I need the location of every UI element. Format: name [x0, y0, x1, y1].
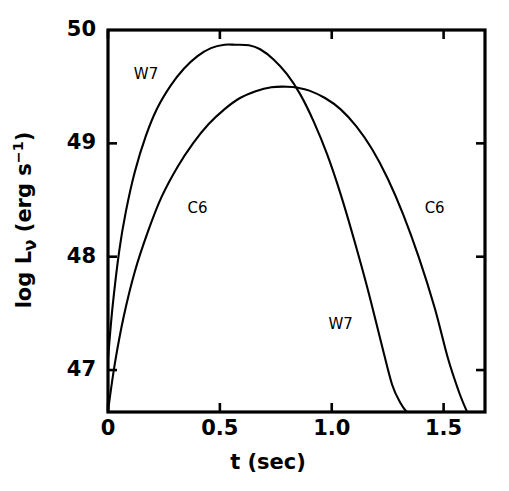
curve-annotation-c6-mid-right: C6: [425, 201, 445, 216]
x-tick-label-0: 0: [101, 418, 116, 439]
y-tick-label-48: 48: [62, 246, 96, 267]
y-axis-title: log Lν (erg s−1): [11, 132, 39, 309]
curve-annotation-w7-upper-left: W7: [134, 67, 158, 82]
y-axis-title-superscript: −1: [10, 141, 26, 163]
y-tick-label-49: 49: [62, 132, 96, 153]
x-tick-label-1-5: 1.5: [425, 418, 462, 439]
curve-annotation-c6-mid-left: C6: [187, 201, 207, 216]
y-axis-title-subscript: ν: [20, 240, 40, 251]
y-axis-title-prefix: log L: [12, 251, 36, 308]
x-tick-label-0-5: 0.5: [201, 418, 238, 439]
x-tick-label-1-0: 1.0: [313, 418, 350, 439]
curve-annotation-w7-lower-right: W7: [329, 317, 353, 332]
y-tick-label-50: 50: [62, 19, 96, 40]
y-tick-label-47: 47: [62, 359, 96, 380]
y-axis-title-unit-open: (erg s: [12, 163, 36, 239]
x-axis-title: t (sec): [230, 452, 306, 473]
y-axis-title-wrap: log Lν (erg s−1): [10, 100, 40, 340]
figure-panel: 47484950 00.51.01.5 W7C6C6W7 log Lν (erg…: [0, 0, 509, 491]
y-axis-title-unit-close: ): [12, 132, 36, 142]
